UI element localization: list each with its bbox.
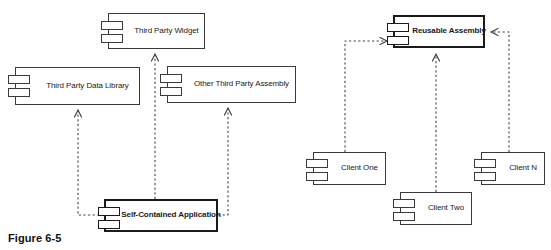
figure-caption: Figure 6-5 [8, 232, 62, 244]
component-label: Third Party Data Library [16, 68, 135, 104]
component-port-tab-lower-icon [160, 87, 182, 96]
component-port-tab-upper-icon [387, 23, 409, 32]
component-port-tab-lower-icon [101, 34, 123, 43]
component-port-tab-lower-icon [387, 36, 409, 45]
component-client-one[interactable]: Client One [313, 152, 386, 185]
component-client-two[interactable]: Client Two [400, 192, 472, 225]
edge-app-to-data-library[interactable] [78, 110, 104, 215]
edge-app-to-other-assembly[interactable] [218, 108, 228, 215]
component-port-tab-upper-icon [474, 159, 496, 168]
component-client-n[interactable]: Client N [481, 152, 545, 185]
component-label: Self-Contained Application [106, 201, 212, 230]
component-port-tab-lower-icon [393, 212, 415, 221]
component-port-tab-upper-icon [98, 207, 120, 216]
component-port-tab-lower-icon [474, 172, 496, 181]
component-port-tab-upper-icon [393, 199, 415, 208]
component-self-contained-application[interactable]: Self-Contained Application [104, 199, 218, 232]
edge-client-n-to-reusable-assembly[interactable] [491, 32, 509, 152]
component-port-tab-upper-icon [306, 159, 328, 168]
figure-canvas: Third Party WidgetThird Party Data Libra… [0, 0, 551, 250]
component-other-third-party-assembly[interactable]: Other Third Party Assembly [167, 66, 296, 103]
component-port-tab-upper-icon [160, 74, 182, 83]
component-port-tab-lower-icon [8, 88, 30, 97]
component-port-tab-lower-icon [306, 172, 328, 181]
arrowhead-client-one-to-reusable-assembly-icon [380, 38, 387, 45]
edge-client-one-to-reusable-assembly[interactable] [345, 41, 387, 152]
component-third-party-data-library[interactable]: Third Party Data Library [15, 67, 140, 105]
component-reusable-assembly[interactable]: Reusable Assembly [393, 15, 485, 48]
component-port-tab-lower-icon [98, 220, 120, 229]
component-label: Other Third Party Assembly [168, 67, 291, 102]
component-port-tab-upper-icon [8, 75, 30, 84]
component-third-party-widget[interactable]: Third Party Widget [108, 13, 205, 49]
component-port-tab-upper-icon [101, 21, 123, 30]
